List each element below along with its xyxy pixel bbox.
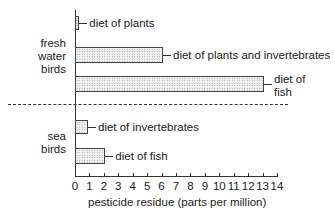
x-tick bbox=[75, 173, 76, 177]
bar-label-fresh-fish: diet of fish bbox=[274, 73, 305, 99]
x-tick bbox=[133, 173, 134, 177]
x-tick bbox=[234, 173, 235, 177]
group-divider-dashed-line bbox=[8, 104, 288, 105]
x-tick bbox=[162, 173, 163, 177]
group-label-sea-birds: sea birds bbox=[6, 130, 66, 156]
bar-label-line: fish bbox=[274, 86, 305, 99]
x-tick bbox=[118, 173, 119, 177]
bar-sea-fish bbox=[75, 148, 105, 164]
leader-line bbox=[163, 55, 171, 56]
bar-label-line: diet of bbox=[274, 73, 305, 86]
bar-label-plants: diet of plants bbox=[89, 17, 154, 30]
x-tick bbox=[205, 173, 206, 177]
bar-label-invertebrates: diet of invertebrates bbox=[98, 121, 199, 134]
leader-line bbox=[79, 23, 87, 24]
leader-line bbox=[105, 156, 113, 157]
leader-line bbox=[264, 84, 272, 85]
x-axis-title: pesticide residue (parts per million) bbox=[88, 196, 266, 208]
x-tick bbox=[176, 173, 177, 177]
group-label-line: birds bbox=[6, 143, 66, 156]
x-tick bbox=[219, 173, 220, 177]
group-label-line: birds bbox=[6, 63, 66, 76]
x-tick bbox=[248, 173, 249, 177]
bar-label-sea-fish: diet of fish bbox=[115, 150, 167, 163]
x-tick bbox=[263, 173, 264, 177]
group-label-fresh-water-birds: fresh water birds bbox=[6, 37, 66, 76]
bar-label-plants-invertebrates: diet of plants and invertebrates bbox=[173, 49, 330, 62]
bar-fresh-fish bbox=[75, 76, 264, 92]
x-tick bbox=[147, 173, 148, 177]
group-label-line: fresh bbox=[6, 37, 66, 50]
x-tick bbox=[104, 173, 105, 177]
x-tick bbox=[89, 173, 90, 177]
leader-line bbox=[88, 127, 96, 128]
x-tick bbox=[190, 173, 191, 177]
x-tick bbox=[277, 173, 278, 177]
x-tick-label: 14 bbox=[269, 180, 285, 192]
bar-fresh-plants-invertebrates bbox=[75, 47, 163, 63]
group-label-line: water bbox=[6, 50, 66, 63]
bar-sea-invertebrates bbox=[75, 120, 88, 134]
group-label-line: sea bbox=[6, 130, 66, 143]
